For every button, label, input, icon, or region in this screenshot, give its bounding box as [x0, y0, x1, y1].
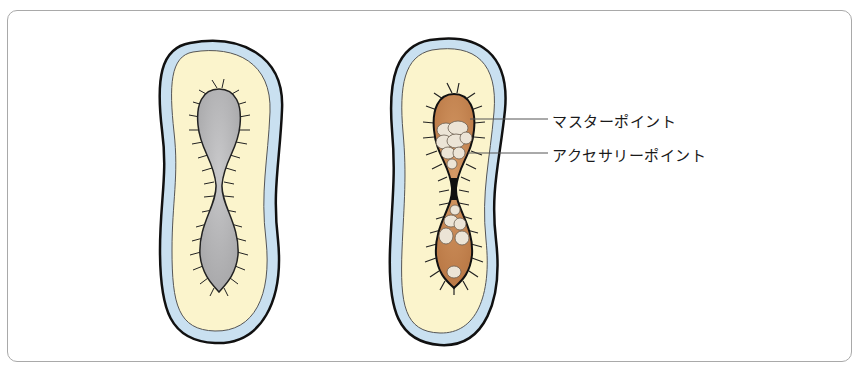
- label-master-point: マスターポイント: [552, 110, 676, 131]
- canal-constriction: [451, 178, 457, 200]
- right-tooth-section: [390, 38, 548, 345]
- diagram-artwork: [0, 0, 868, 374]
- right-dentin: [402, 49, 495, 333]
- label-accessory-point: アクセサリーポイント: [552, 144, 706, 165]
- left-tooth-section: [160, 41, 283, 343]
